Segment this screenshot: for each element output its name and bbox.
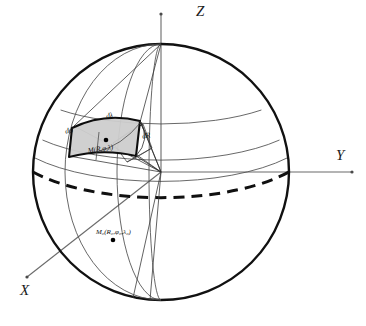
sphere-coordinate-diagram bbox=[0, 0, 366, 326]
meridian-mid-left bbox=[117, 44, 161, 300]
ray-north-left bbox=[74, 44, 161, 126]
axis-y-endpoint bbox=[350, 170, 353, 173]
axis-z-endpoint bbox=[159, 12, 162, 15]
point-label-m0: M₀(R₀,φ₀,λ₀) bbox=[96, 229, 131, 236]
axis-x-endpoint bbox=[25, 275, 28, 278]
meridian-circles bbox=[65, 44, 161, 300]
axis-label-y: Y bbox=[336, 148, 344, 163]
meridian-left bbox=[65, 44, 161, 300]
differential-label-dphi: dφ bbox=[64, 126, 73, 135]
figure-canvas: Z Y X dλ dφ dR M(R,φ,λ) M₀(R₀,φ₀,λ₀) bbox=[0, 0, 366, 326]
axis-label-x: X bbox=[20, 283, 29, 298]
axis-label-z: Z bbox=[196, 4, 204, 19]
differential-label-dr: dR bbox=[141, 131, 150, 140]
differential-label-dlambda: dλ bbox=[105, 111, 113, 120]
ray-centre-to-element-bl bbox=[69, 156, 161, 172]
point-m0-marker bbox=[111, 238, 116, 243]
point-m-marker bbox=[104, 138, 109, 143]
radial-rays bbox=[69, 44, 161, 300]
ray-centre-south-a bbox=[150, 172, 161, 300]
